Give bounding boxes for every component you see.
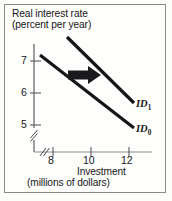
curve-id0 — [40, 55, 134, 128]
chart-figure: Real interest rate (percent per year) In… — [0, 0, 172, 201]
curve-id1 — [67, 37, 134, 103]
plot-area — [0, 0, 172, 201]
